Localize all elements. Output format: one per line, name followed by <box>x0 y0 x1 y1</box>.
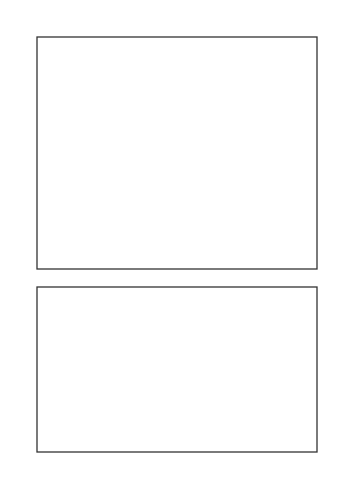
top-panel-frame <box>37 37 317 269</box>
figure <box>0 0 355 488</box>
bottom-panel-frame <box>37 287 317 452</box>
